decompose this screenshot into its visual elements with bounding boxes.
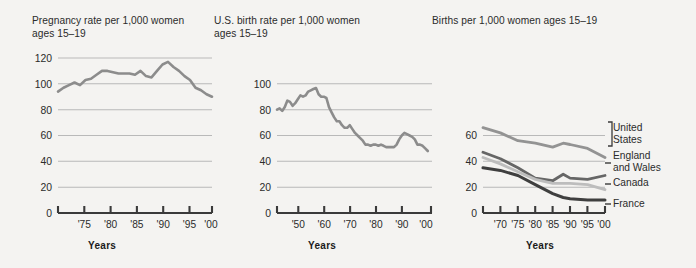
svg-text:20: 20	[465, 182, 477, 193]
series-line-united-states	[483, 128, 605, 158]
series-line-england-and-wales	[483, 152, 605, 180]
svg-text:0: 0	[471, 208, 477, 219]
chart-panel-international-births: Births per 1,000 women ages 15–19 60 40 …	[450, 0, 696, 268]
svg-text:80: 80	[40, 105, 52, 116]
svg-text:'75: '75	[511, 219, 525, 230]
legend-bracket-united-states	[608, 122, 612, 146]
svg-text:20: 20	[40, 182, 52, 193]
svg-text:'80: '80	[529, 219, 543, 230]
svg-text:120: 120	[35, 53, 53, 64]
series-line-us-birth-rate	[277, 88, 428, 151]
svg-text:'95: '95	[183, 219, 197, 230]
legend-dashes	[605, 163, 611, 204]
x-tick-labels: '70 '75 '80 '85 '90 '95 '00	[494, 219, 611, 230]
svg-text:'50: '50	[292, 219, 306, 230]
plot-area-international-births: 60 40 20 0 '70	[450, 0, 696, 268]
x-axis-label-panel-3: Years	[526, 240, 554, 251]
x-axis-label-panel-1: Years	[88, 240, 116, 251]
svg-text:'70: '70	[494, 219, 508, 230]
svg-text:'90: '90	[563, 219, 577, 230]
chart-panel-us-birth-rate: U.S. birth rate per 1,000 women ages 15–…	[232, 0, 450, 268]
svg-text:'80: '80	[369, 219, 383, 230]
svg-text:40: 40	[259, 156, 271, 167]
svg-text:'00: '00	[419, 219, 433, 230]
svg-text:'00: '00	[597, 219, 611, 230]
svg-text:60: 60	[259, 130, 271, 141]
svg-text:80: 80	[259, 105, 271, 116]
svg-text:60: 60	[40, 130, 52, 141]
x-axis	[277, 206, 432, 213]
svg-text:'70: '70	[343, 219, 357, 230]
svg-text:'85: '85	[130, 219, 144, 230]
svg-text:0: 0	[265, 208, 271, 219]
legend-label-canada: Canada	[613, 177, 649, 189]
y-tick-labels: 60 40 20 0	[465, 130, 477, 219]
x-axis	[58, 206, 212, 213]
three-panel-line-chart-figure: Pregnancy rate per 1,000 women ages 15–1…	[0, 0, 696, 268]
x-axis	[483, 206, 605, 213]
svg-text:0: 0	[46, 208, 52, 219]
svg-text:'80: '80	[104, 219, 118, 230]
plot-area-us-birth-rate: 100 80 60 40 20 0	[232, 0, 450, 268]
svg-text:'00: '00	[204, 219, 218, 230]
svg-text:'75: '75	[78, 219, 92, 230]
svg-text:40: 40	[465, 156, 477, 167]
series-line-pregnancy-rate	[58, 62, 212, 97]
y-tick-labels: 100 80 60 40 20 0	[254, 79, 272, 219]
svg-text:'95: '95	[581, 219, 595, 230]
x-axis-label-panel-2: Years	[308, 240, 336, 251]
legend-label-united-states: United States	[613, 122, 642, 147]
svg-text:100: 100	[35, 79, 53, 90]
x-tick-labels: '50 '60 '70 '80 '90 '00	[292, 219, 433, 230]
svg-text:20: 20	[259, 182, 271, 193]
svg-text:'90: '90	[395, 219, 409, 230]
x-tick-labels: '75 '80 '85 '90 '95 '00	[78, 219, 218, 230]
svg-text:60: 60	[465, 130, 477, 141]
svg-text:100: 100	[254, 79, 272, 90]
legend-label-england-and-wales: England and Wales	[613, 150, 661, 175]
svg-text:'60: '60	[318, 219, 332, 230]
y-tick-labels: 120 100 80 60 40 20 0	[35, 53, 53, 219]
series-line-canada	[483, 158, 605, 190]
svg-text:40: 40	[40, 156, 52, 167]
chart-panel-pregnancy-rate: Pregnancy rate per 1,000 women ages 15–1…	[0, 0, 232, 268]
legend-label-france: France	[613, 198, 645, 210]
gridlines	[58, 58, 212, 187]
svg-text:'85: '85	[546, 219, 560, 230]
svg-text:'90: '90	[157, 219, 171, 230]
plot-area-pregnancy-rate: 120 100 80 60 40 20 0	[0, 0, 232, 268]
